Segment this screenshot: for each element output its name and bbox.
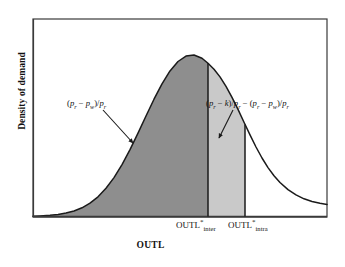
rf-minus1: − <box>216 98 225 108</box>
lf-minus1: − <box>77 98 86 108</box>
tick-intra-base: OUTL <box>228 220 252 230</box>
tick-intra-sub: intra <box>256 225 268 232</box>
tick-inter-sub: inter <box>204 225 216 232</box>
chart-figure: Density of demand OUTL OUTL*inter OUTL*i… <box>0 0 345 267</box>
rf-p5sub: r <box>286 103 288 110</box>
y-axis-title: Density of demand <box>17 31 27 151</box>
x-axis-title: OUTL <box>0 240 323 250</box>
density-of-demand-chart <box>0 0 345 267</box>
rf-minus2: − <box>241 98 250 108</box>
lf-p3sub: r <box>104 103 106 110</box>
tick-inter-base: OUTL <box>176 220 200 230</box>
left-formula-annotation: (pr − pw)/pr <box>67 98 106 108</box>
x-tick-label-outl-intra: OUTL*intra <box>228 220 268 230</box>
x-tick-label-outl-inter: OUTL*inter <box>176 220 216 230</box>
right-formula-annotation: (pr − k)/pr − (pr − pw)/pr <box>206 98 289 108</box>
